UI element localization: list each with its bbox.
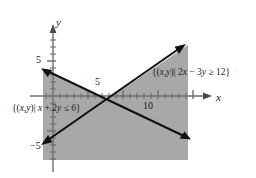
x-axis-label: x: [216, 92, 221, 103]
left-region-relation: ≤ 6}: [61, 103, 80, 113]
left-region-vars: x,y: [20, 103, 31, 113]
right-region-mid: )| 2: [171, 67, 183, 77]
x-tick-label-10: 10: [143, 101, 153, 111]
left-region-mid: )|: [31, 103, 38, 113]
y-tick-label-5: 5: [36, 55, 41, 65]
right-region-relation: ≥ 12}: [206, 67, 230, 77]
left-region-set-label: {(x,y)| x + 2y ≤ 6}: [12, 104, 81, 114]
left-region-plus: + 2: [42, 103, 57, 113]
right-region-set-label: {(x,y)| 2x − 3y ≥ 12}: [152, 68, 230, 78]
y-tick-label-negative-5: −5: [30, 141, 41, 151]
y-axis-label: y: [56, 17, 61, 28]
x-axis-arrowhead: [203, 93, 212, 100]
inequality-graph-figure: y x 5 −5 5 10 {(x,y)| x + 2y ≤ 6} {(x,y)…: [0, 0, 256, 178]
right-region-minus: − 3: [187, 67, 202, 77]
left-region-prefix: {(: [12, 103, 20, 113]
graph-canvas: [0, 0, 256, 178]
x-tick-label-5: 5: [95, 77, 100, 87]
right-region-vars: x,y: [160, 67, 171, 77]
right-region-prefix: {(: [152, 67, 160, 77]
